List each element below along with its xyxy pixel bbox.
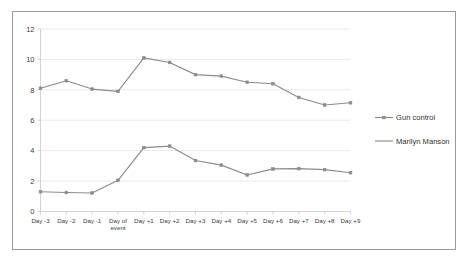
data-point-marker[interactable] [349, 101, 352, 104]
y-tick-label: 4 [30, 146, 34, 155]
data-point-marker[interactable] [39, 190, 42, 193]
legend-label: Marilyn Manson [396, 137, 450, 146]
data-series-group[interactable] [39, 57, 352, 195]
y-tick-label: 2 [30, 177, 34, 186]
x-tick-label: Day +3 [186, 217, 206, 224]
x-tick-label: Day -2 [57, 217, 76, 224]
series-line[interactable] [41, 58, 351, 105]
data-point-marker[interactable] [220, 164, 223, 167]
x-tick-label: Day +1 [134, 217, 154, 224]
x-tick-label: Day ofevent [109, 217, 127, 232]
x-tick-label: Day +6 [263, 217, 283, 224]
line-chart[interactable]: 024681012 Day -3Day -2Day -1Day ofeventD… [13, 12, 457, 251]
x-tick-label: Day -3 [31, 217, 50, 224]
y-tick-label: 8 [30, 86, 34, 95]
x-tick-label: Day +7 [289, 217, 309, 224]
x-tick-label: Day +2 [160, 217, 180, 224]
y-tick-label: 6 [30, 116, 34, 125]
y-tick-label: 12 [26, 25, 34, 34]
data-point-marker[interactable] [220, 75, 223, 78]
x-tick-label: Day -1 [83, 217, 102, 224]
chart-border: 024681012 Day -3Day -2Day -1Day ofeventD… [12, 11, 456, 250]
data-point-marker[interactable] [194, 73, 197, 76]
chart-figure: 024681012 Day -3Day -2Day -1Day ofeventD… [0, 0, 469, 263]
chart-plot-container[interactable]: 024681012 Day -3Day -2Day -1Day ofeventD… [13, 12, 457, 251]
data-point-marker[interactable] [246, 174, 249, 177]
legend-marker [383, 116, 386, 119]
x-axis-tick-labels: Day -3Day -2Day -1Day ofeventDay +1Day +… [31, 217, 361, 232]
series-marilyn-manson[interactable] [39, 145, 352, 195]
series-gun-control[interactable] [39, 57, 352, 107]
data-point-marker[interactable] [91, 88, 94, 91]
data-point-marker[interactable] [272, 168, 275, 171]
x-tick-label: Day +4 [211, 217, 231, 224]
data-point-marker[interactable] [142, 57, 145, 60]
data-point-marker[interactable] [65, 79, 68, 82]
series-line[interactable] [41, 146, 351, 193]
x-tick-label: Day +5 [237, 217, 257, 224]
chart-legend[interactable]: Gun controlMarilyn Manson [375, 113, 450, 146]
gridlines-group [41, 29, 351, 181]
legend-label: Gun control [396, 113, 436, 122]
data-point-marker[interactable] [297, 96, 300, 99]
data-point-marker[interactable] [168, 61, 171, 64]
data-point-marker[interactable] [297, 167, 300, 170]
x-tick-label: Day +8 [315, 217, 335, 224]
data-point-marker[interactable] [323, 168, 326, 171]
data-point-marker[interactable] [117, 90, 120, 93]
data-point-marker[interactable] [323, 104, 326, 107]
data-point-marker[interactable] [194, 159, 197, 162]
legend-item-gun-control[interactable]: Gun control [375, 113, 436, 122]
data-point-marker[interactable] [349, 171, 352, 174]
data-point-marker[interactable] [168, 145, 171, 148]
data-point-marker[interactable] [65, 191, 68, 194]
data-point-marker[interactable] [39, 87, 42, 90]
legend-item-marilyn-manson[interactable]: Marilyn Manson [375, 137, 450, 146]
axes-group [38, 29, 351, 215]
data-point-marker[interactable] [91, 192, 94, 195]
data-point-marker[interactable] [246, 81, 249, 84]
y-tick-label: 10 [26, 55, 34, 64]
x-tick-label: Day +9 [341, 217, 361, 224]
y-tick-label: 0 [30, 207, 34, 216]
y-axis-tick-labels: 024681012 [26, 25, 34, 217]
data-point-marker[interactable] [272, 82, 275, 85]
data-point-marker[interactable] [142, 146, 145, 149]
data-point-marker[interactable] [117, 179, 120, 182]
